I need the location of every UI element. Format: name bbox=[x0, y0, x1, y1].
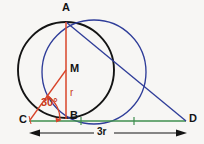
label-point-a: A bbox=[62, 2, 70, 13]
label-angle-30: 30° bbox=[41, 97, 58, 108]
label-point-m: M bbox=[70, 63, 79, 74]
label-dimension-3r: 3r bbox=[97, 127, 106, 137]
label-point-b: B bbox=[70, 110, 78, 121]
label-point-d: D bbox=[189, 113, 197, 124]
geometry-canvas bbox=[0, 0, 204, 144]
label-radius-r: r bbox=[70, 88, 73, 98]
label-point-c: C bbox=[19, 114, 27, 125]
geometry-figure: A M B C D r 30° 3r bbox=[0, 0, 204, 144]
line-ad bbox=[66, 22, 186, 121]
dimension-arrow-left bbox=[29, 130, 40, 137]
dimension-arrow-right bbox=[176, 130, 187, 137]
